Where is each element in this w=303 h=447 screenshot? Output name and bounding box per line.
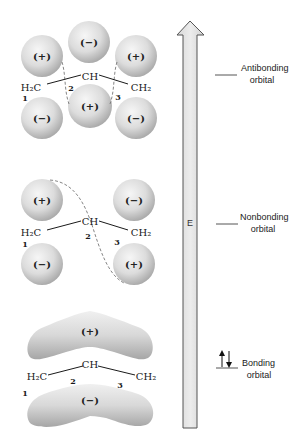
atom-c2: CH	[82, 216, 99, 227]
sign-c1-bottom: (−)	[33, 113, 51, 124]
sign-c1-bottom: (−)	[33, 259, 51, 270]
carbon-number-3: 3	[114, 237, 120, 247]
sign-c3-top: (+)	[127, 51, 145, 62]
sign-c2-top: (−)	[80, 37, 98, 48]
antibonding-label-line2: orbital	[250, 75, 275, 85]
antibonding-label: Antibonding	[241, 63, 289, 73]
carbon-number-3: 3	[115, 92, 121, 102]
nonbonding-label-line2: orbital	[251, 224, 276, 234]
bond-c2-c3	[98, 366, 135, 375]
bonding-label: Bonding	[242, 358, 275, 368]
bond-c2-c3	[99, 221, 128, 230]
bonding-level: Bonding orbital	[216, 350, 275, 380]
atom-c2: CH	[82, 359, 99, 370]
bond-c1-c2	[47, 221, 81, 230]
energy-label: E	[187, 218, 193, 228]
carbon-number-2: 2	[70, 376, 76, 386]
sign-bottom: (−)	[81, 395, 99, 406]
carbon-number-2: 2	[85, 231, 91, 241]
bonding-label-line2: orbital	[247, 370, 272, 380]
atom-c1: H₂C	[21, 227, 42, 238]
energy-axis-arrow: E	[177, 21, 204, 428]
carbon-number-1: 1	[22, 388, 28, 398]
atom-c1: H₂C	[27, 371, 48, 382]
atom-c3: CH₂	[131, 82, 151, 93]
carbon-number-1: 1	[22, 93, 28, 103]
atom-c1: H₂C	[21, 82, 42, 93]
electron-spin-down-icon	[226, 351, 232, 368]
nonbonding-orbital-group: (+) (−) (−) (+) H₂C CH CH₂ 1 2 3	[21, 179, 155, 285]
nonbonding-level: Nonbonding orbital	[216, 212, 289, 234]
sign-c1-top: (+)	[33, 51, 51, 62]
sign-c1-top: (+)	[33, 195, 51, 206]
bond-c1-c2	[48, 366, 83, 375]
allyl-mo-diagram: (+) (−) (+) (−) (+) (−) H₂C CH CH₂ 1 2 3…	[0, 0, 303, 447]
nonbonding-label: Nonbonding	[240, 212, 289, 222]
atom-c3: CH₂	[131, 227, 151, 238]
bond-c1-c2	[47, 75, 81, 84]
antibonding-level: Antibonding orbital	[215, 63, 289, 85]
sign-c3-bottom: (−)	[127, 113, 145, 124]
electron-spin-up-icon	[219, 350, 225, 367]
carbon-number-3: 3	[117, 380, 123, 390]
atom-c3: CH₂	[136, 371, 156, 382]
atom-c2: CH	[82, 71, 99, 82]
carbon-number-1: 1	[22, 239, 28, 249]
antibonding-orbital-group: (+) (−) (+) (−) (+) (−) H₂C CH CH₂ 1 2 3	[21, 21, 157, 139]
sign-c2-bottom: (+)	[81, 101, 99, 112]
bonding-orbital-group: (+) (−) H₂C CH CH₂ 1 2 3	[22, 311, 156, 427]
carbon-number-2: 2	[68, 83, 74, 93]
sign-top: (+)	[81, 326, 99, 337]
sign-c3-top: (−)	[125, 195, 143, 206]
sign-c3-bottom: (+)	[125, 259, 143, 270]
